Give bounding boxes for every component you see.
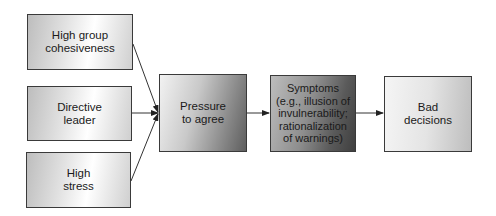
- arrow-stress-to-pressure: [131, 114, 158, 181]
- box-pressure-to-agree: Pressure to agree: [159, 74, 247, 152]
- box-label: High stress: [63, 167, 94, 193]
- box-directive-leader: Directive leader: [27, 86, 132, 141]
- box-label: Symptoms (e.g., illusion of invulnerabil…: [276, 82, 350, 145]
- box-high-group-cohesiveness: High group cohesiveness: [27, 14, 133, 70]
- box-label: Directive leader: [57, 101, 102, 127]
- box-symptoms: Symptoms (e.g., illusion of invulnerabil…: [270, 75, 356, 152]
- arrow-cohesiveness-to-pressure: [133, 44, 158, 112]
- box-bad-decisions: Bad decisions: [384, 76, 472, 152]
- box-label: High group cohesiveness: [45, 29, 115, 55]
- box-high-stress: High stress: [26, 152, 131, 208]
- box-label: Bad decisions: [404, 101, 452, 127]
- box-label: Pressure to agree: [180, 100, 226, 126]
